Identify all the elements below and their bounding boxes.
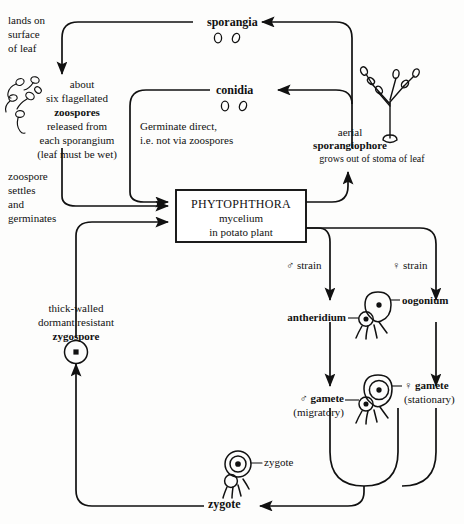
lands-on-leaf-label: lands on <box>8 14 45 27</box>
mycelium-box-line3: in potato plant <box>180 226 302 239</box>
zygospore-label-bold: zygospore <box>20 330 132 343</box>
mycelium-box-line2: mycelium <box>180 212 302 225</box>
female-strain-label: ♀ strain <box>392 259 427 272</box>
zygote-label: zygote <box>208 498 241 512</box>
zygospore-label-1: thick-walled <box>20 302 132 315</box>
arrow-sporangia-to-zoospores <box>62 22 193 74</box>
germinate-direct-label-2: i.e. not via zoospores <box>140 134 233 147</box>
zoospores-label-4: released from <box>22 120 132 133</box>
two-oval-spores-icon-conidia <box>221 100 247 111</box>
zoospores-label-1: about <box>32 78 132 91</box>
antheridium-label: antheridium <box>258 311 346 324</box>
phytophthora-life-cycle-diagram: lands on surface of leaf sporangia conid… <box>0 0 464 524</box>
lands-on-leaf-label-3: of leaf <box>8 42 36 55</box>
lands-on-leaf-label-2: surface <box>8 28 40 41</box>
two-oval-spores-icon <box>214 32 240 43</box>
zygote-cell-icon <box>223 451 262 498</box>
conidia-label: conidia <box>216 84 253 98</box>
arrow-mycelium-to-sporangiophore <box>306 172 348 202</box>
female-gamete-sublabel: (stationary) <box>404 393 455 406</box>
zygospore-label-2: dormant resistant <box>12 316 140 329</box>
male-gamete-label: ♂ gamete <box>262 392 344 405</box>
oogonium-label: oogonium <box>402 294 448 307</box>
zoospore-settles-label-1: zoospore <box>8 170 48 183</box>
zoospores-label-2: six flagellated <box>22 92 132 105</box>
zoospore-settles-label-3: and <box>8 198 24 211</box>
zoospore-settles-label-4: germinates <box>8 212 56 225</box>
arrow-male-gamete-to-zygote <box>330 408 398 486</box>
male-strain-label: ♂ strain <box>286 259 321 272</box>
male-gamete-sublabel: (migratory) <box>258 406 344 419</box>
arrow-female-gamete-join <box>402 452 436 486</box>
female-gamete-label: ♀ gamete <box>404 379 449 392</box>
arrow-zygote-to-zygospore <box>76 364 204 506</box>
zoospore-settles-label-2: settles <box>8 184 36 197</box>
sporangiophore-label-3: grows out of stoma of leaf <box>288 153 456 164</box>
arrow-zygote-union-to-label <box>260 486 364 506</box>
sporangiophore-label-bold: sporangiophore <box>296 139 404 152</box>
sporangia-label: sporangia <box>207 16 258 30</box>
mycelium-box-genus: PHYTOPHTHORA <box>180 198 302 212</box>
oogonium-antheridium-icon <box>356 292 391 339</box>
zygote-small-label: zygote <box>264 456 293 469</box>
arrow-sporangiophore-to-conidia <box>278 90 352 104</box>
gamete-pair-icon <box>356 375 392 424</box>
zoospores-label-6: (leaf must be wet) <box>14 148 140 161</box>
zoospores-label-5: each sporangium <box>18 134 136 147</box>
zygospore-circle-icon <box>65 341 88 364</box>
zoospores-label-bold: zoospores <box>22 106 132 119</box>
germinate-direct-label-1: Germinate direct, <box>140 120 217 133</box>
sporangiophore-label-1: aerial <box>320 126 380 139</box>
